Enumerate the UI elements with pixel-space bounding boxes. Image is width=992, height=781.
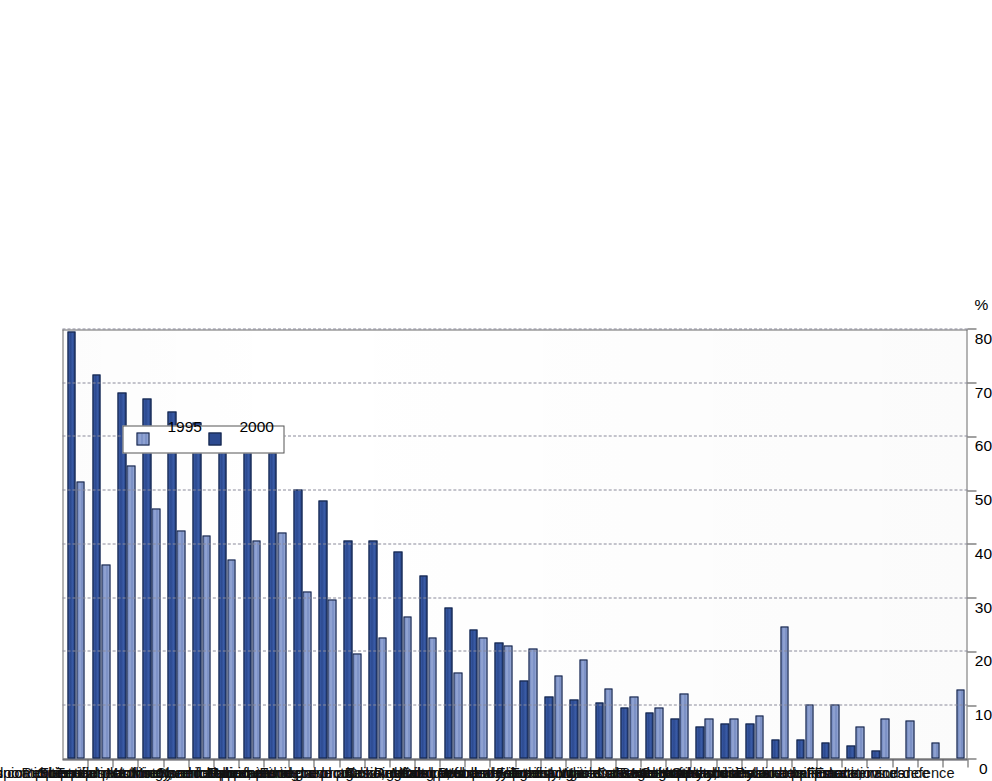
bar-1995 (478, 637, 487, 758)
bar-2000 (595, 702, 604, 758)
bar-1995 (176, 530, 185, 758)
bar-2000 (368, 540, 377, 758)
bar-2000 (167, 411, 176, 758)
bar-2000 (821, 742, 830, 758)
bar-1995 (931, 742, 940, 758)
bar-1995 (704, 718, 713, 758)
bar-1995 (126, 465, 135, 758)
axis-tick-label: 70 (974, 383, 992, 401)
bar-2000 (670, 718, 679, 758)
gridline (62, 489, 967, 490)
bar-2000 (771, 739, 780, 758)
bar-1995 (101, 565, 110, 759)
bar-2000 (720, 723, 729, 758)
bar-1995 (378, 637, 387, 758)
axis-tick-label: 0 (979, 759, 988, 777)
bar-2000 (569, 699, 578, 758)
bar-2000 (469, 629, 478, 758)
category-tick (967, 759, 968, 767)
bar-1995 (277, 532, 286, 758)
bar-2000 (871, 750, 880, 758)
bar-2000 (419, 575, 428, 758)
bar-2000 (92, 374, 101, 758)
bar-2000 (645, 712, 654, 758)
bar-1995 (956, 689, 965, 758)
bar-2000 (318, 500, 327, 758)
bar-1995 (604, 688, 613, 758)
axis-tick-label: 60 (974, 437, 992, 455)
bar-1995 (805, 704, 814, 758)
category-label: Public administration and defence (735, 766, 954, 781)
gridline (62, 382, 967, 383)
legend-label-2000: 2000 (239, 417, 257, 461)
bar-2000 (343, 540, 352, 758)
bar-2000 (444, 608, 453, 759)
bar-1995 (755, 715, 764, 758)
axis-tick-label: 10 (974, 705, 992, 723)
bar-1995 (579, 659, 588, 758)
gridline (62, 328, 967, 329)
legend-label-1995: 1995 (167, 417, 185, 461)
gridline (62, 704, 967, 705)
bar-1995 (654, 707, 663, 758)
bar-2000 (293, 489, 302, 758)
gridline (62, 651, 967, 652)
bar-1995 (830, 704, 839, 758)
legend-swatch-1995 (136, 432, 149, 445)
bar-2000 (846, 745, 855, 758)
bar-2000 (192, 422, 201, 758)
bar-2000 (494, 642, 503, 758)
bar-1995 (76, 481, 85, 758)
bar-1995 (302, 591, 311, 758)
bar-1995 (679, 694, 688, 759)
legend-entry: 2000 (208, 430, 270, 448)
bar-2000 (695, 726, 704, 758)
bar-1995 (403, 616, 412, 758)
gridline (62, 597, 967, 598)
bar-1995 (202, 535, 211, 758)
bar-1995 (227, 559, 236, 758)
bar-1995 (151, 508, 160, 758)
bar-1995 (554, 675, 563, 758)
chart-legend: 19952000 (122, 425, 284, 453)
bar-2000 (393, 551, 402, 758)
bar-1995 (428, 637, 437, 758)
axis-tick-label: 40 (974, 544, 992, 562)
bar-1995 (855, 726, 864, 758)
bar-2000 (745, 723, 754, 758)
bar-2000 (620, 707, 629, 758)
bar-1995 (880, 718, 889, 758)
axis-tick-label: 80 (974, 329, 992, 347)
legend-entry: 1995 (136, 430, 198, 448)
bar-2000 (519, 680, 528, 758)
bar-1995 (905, 720, 914, 758)
axis-tick-label: 50 (974, 490, 992, 508)
axis-tick-label: 30 (974, 598, 992, 616)
bar-1995 (503, 645, 512, 758)
bar-1995 (453, 672, 462, 758)
legend-swatch-2000 (208, 432, 221, 445)
bar-1995 (327, 599, 336, 758)
bar-1995 (528, 648, 537, 758)
axis-unit-label: % (974, 295, 988, 313)
bar-1995 (729, 718, 738, 758)
bar-2000 (796, 739, 805, 758)
bar-2000 (268, 452, 277, 758)
axis-tick-label: 20 (974, 652, 992, 670)
bar-1995 (252, 540, 261, 758)
gridline (62, 543, 967, 544)
bar-1995 (780, 626, 789, 758)
